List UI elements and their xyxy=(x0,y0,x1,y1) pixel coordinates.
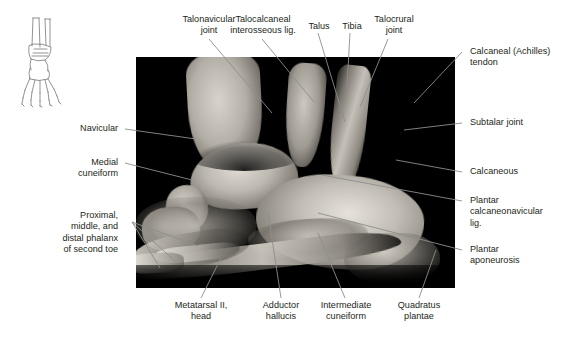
label-plantar-calcaneonavicular-lig: Plantar calcaneonavicular lig. xyxy=(470,195,558,229)
achilles-tendon-structure xyxy=(326,64,373,189)
label-calcaneous: Calcaneous xyxy=(470,166,558,177)
label-phalanges-second-toe: Proximal, middle, and distal phalanx of … xyxy=(24,210,118,256)
label-calcaneal-achilles-tendon: Calcaneal (Achilles) tendon xyxy=(470,46,560,69)
label-medial-cuneiform: Medial cuneiform xyxy=(28,157,118,180)
sagittal-foot-section-photograph xyxy=(136,57,455,288)
figure-caption xyxy=(4,329,557,338)
foot-orientation-diagram xyxy=(12,16,68,108)
label-subtalar-joint: Subtalar joint xyxy=(470,117,558,128)
label-navicular: Navicular xyxy=(28,123,118,134)
label-metatarsal-ii-head: Metatarsal II, head xyxy=(160,300,242,323)
label-intermediate-cuneiform: Intermediate cuneiform xyxy=(311,300,381,323)
label-talus: Talus xyxy=(300,21,338,32)
label-plantar-aponeurosis: Plantar aponeurosis xyxy=(470,244,558,267)
anatomy-figure: Talonavicular joint Talocalcaneal intero… xyxy=(0,0,561,338)
photo-lower-background xyxy=(136,265,455,288)
label-adductor-hallucis: Adductor hallucis xyxy=(248,300,314,323)
label-talocrural-joint: Talocrural joint xyxy=(364,14,424,37)
talocrural-joint-space xyxy=(188,141,300,171)
label-quadratus-plantae: Quadratus plantae xyxy=(388,300,450,323)
